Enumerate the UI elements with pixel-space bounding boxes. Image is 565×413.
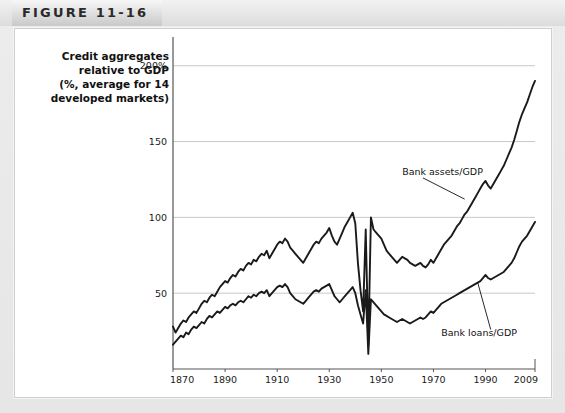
chart-x-tick-labels: 18701890191019301950197019902009 xyxy=(170,374,538,385)
y-tick-label: 150 xyxy=(149,136,167,147)
y-tick-label: 200% xyxy=(140,60,167,71)
figure-header-bar: FIGURE 11-16 xyxy=(0,0,565,26)
figure-label: FIGURE 11-16 xyxy=(22,5,148,20)
figure-card: Credit aggregates relative to GDP (%, av… xyxy=(14,28,552,398)
series-line-bank-assets-gdp xyxy=(173,81,535,345)
annotation-label: Bank assets/GDP xyxy=(402,166,483,177)
x-tick-label: 1870 xyxy=(170,374,194,385)
x-tick-label: 1970 xyxy=(421,374,445,385)
chart-svg: 200%15010050 187018901910193019501970199… xyxy=(15,29,551,397)
annotation-leader-line xyxy=(423,178,465,199)
x-tick-label: 1890 xyxy=(213,374,237,385)
chart-plot-area: 200%15010050 187018901910193019501970199… xyxy=(15,29,551,397)
annotation-label: Bank loans/GDP xyxy=(441,327,517,338)
y-tick-label: 50 xyxy=(155,288,167,299)
chart-annotations: Bank assets/GDPBank loans/GDP xyxy=(402,166,517,338)
figure-page: FIGURE 11-16 Credit aggregates relative … xyxy=(0,0,565,413)
annotation-leader-line xyxy=(478,283,491,330)
x-tick-label: 1950 xyxy=(369,374,393,385)
chart-gridlines xyxy=(173,66,535,293)
x-tick-label: 2009 xyxy=(514,374,538,385)
x-tick-label: 1990 xyxy=(473,374,497,385)
y-tick-label: 100 xyxy=(149,212,167,223)
x-tick-label: 1930 xyxy=(317,374,341,385)
chart-axes xyxy=(173,37,535,372)
x-tick-label: 1910 xyxy=(265,374,289,385)
chart-y-tick-labels: 200%15010050 xyxy=(140,60,167,298)
